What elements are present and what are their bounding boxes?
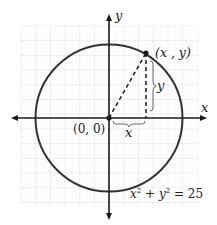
equation-rhs: = 25 bbox=[170, 187, 203, 201]
y-axis-up-arrow-icon bbox=[106, 14, 112, 21]
x-axis-label: x bbox=[201, 100, 209, 115]
x-axis-right-arrow-icon bbox=[200, 115, 207, 121]
horizontal-leg-label: x bbox=[125, 125, 133, 140]
origin-label: (0, 0) bbox=[73, 122, 105, 136]
vertical-leg-label: y bbox=[156, 78, 165, 93]
x-axis-left-arrow-icon bbox=[11, 115, 18, 121]
y-axis-label: y bbox=[114, 8, 123, 23]
circle-point bbox=[143, 50, 148, 55]
coordinate-plane-diagram: y x (0, 0) (x , y) x y x2 + y2 = 25 bbox=[0, 0, 217, 225]
equation-plus: + bbox=[141, 187, 159, 201]
y-axis-down-arrow-icon bbox=[106, 213, 112, 220]
point-label: (x , y) bbox=[155, 45, 191, 60]
origin-point bbox=[106, 115, 111, 120]
